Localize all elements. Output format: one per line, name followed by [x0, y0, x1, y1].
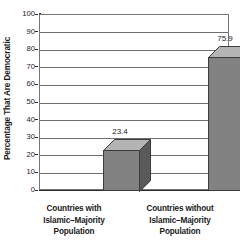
bar-top-face [208, 46, 241, 58]
y-axis-title: Percentage That Are Democratic [0, 0, 16, 196]
x-axis-category-label-line: Islamic–Majority [124, 215, 236, 227]
y-axis-tick-mark [35, 102, 38, 103]
gridline [40, 120, 228, 121]
plot-area [39, 14, 229, 190]
x-axis-category-label-line: Countries with [18, 203, 130, 215]
y-axis-tick-mark [35, 49, 38, 50]
y-axis-tick-label: 0 [15, 186, 35, 194]
x-axis-category-label-line: Population [18, 226, 130, 238]
y-axis-tick-label: 50 [15, 98, 35, 106]
y-axis-tick-mark [35, 190, 38, 191]
bar-side-face [139, 139, 151, 192]
y-axis-tick-mark [35, 66, 38, 67]
x-axis-category-label-1: Countries withoutIslamic–MajorityPopulat… [124, 203, 236, 238]
y-axis-tick-label: 80 [15, 45, 35, 53]
gridline [40, 67, 228, 68]
y-axis-title-text: Percentage That Are Democratic [4, 36, 13, 159]
y-axis-tick-label: 20 [15, 151, 35, 159]
bar-value-label: 75.9 [205, 34, 240, 43]
x-axis-category-label-line: Countries without [124, 203, 236, 215]
y-axis-tick-label: 60 [15, 80, 35, 88]
bar [103, 139, 151, 191]
y-axis-tick-label: 10 [15, 168, 35, 176]
y-axis-tick-mark [35, 119, 38, 120]
gridline [40, 103, 228, 104]
y-axis-tick-label: 70 [15, 63, 35, 71]
y-axis-tick-mark [35, 154, 38, 155]
x-axis-category-label-line: Islamic–Majority [18, 215, 130, 227]
y-axis-tick-mark [35, 14, 38, 15]
bar-front-face [208, 57, 241, 191]
bar [208, 46, 241, 191]
y-axis-tick-label: 30 [15, 133, 35, 141]
gridline [40, 85, 228, 86]
y-axis-tick-label: 90 [15, 28, 35, 36]
x-axis-category-label-line: Population [124, 226, 236, 238]
y-axis-tick-labels: 1009080706050403020100 [16, 10, 38, 194]
y-axis-tick-label: 100 [15, 10, 35, 18]
y-axis-tick-mark [35, 137, 38, 138]
gridline [40, 32, 228, 33]
gridline [40, 50, 228, 51]
y-axis-tick-mark [35, 84, 38, 85]
y-axis-tick-mark [35, 172, 38, 173]
bar-value-label: 23.4 [100, 127, 140, 136]
bar-front-face [103, 150, 140, 191]
y-axis-tick-label: 40 [15, 116, 35, 124]
x-axis-category-label-0: Countries withIslamic–MajorityPopulation [18, 203, 130, 238]
y-axis-tick-mark [35, 31, 38, 32]
